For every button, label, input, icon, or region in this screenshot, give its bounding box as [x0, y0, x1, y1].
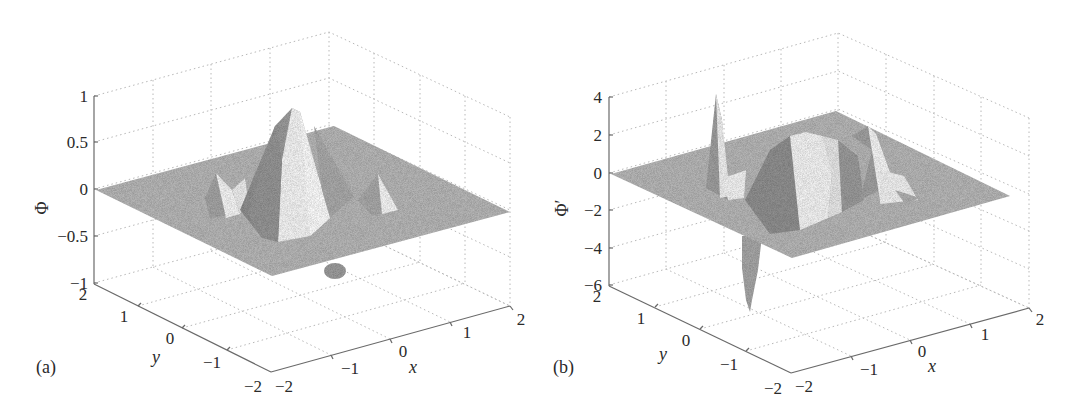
- panel-b: 4 2 0 −2 −4 −6 Φ′ 2 1 0 −1 −2 y −2 −1 0 …: [552, 33, 1044, 398]
- z-tick: 2: [594, 126, 603, 145]
- panel-b-z-label: Φ′: [552, 199, 572, 216]
- y-tick: 1: [120, 307, 129, 326]
- z-tick: 0: [80, 180, 89, 199]
- z-tick: −0.5: [57, 227, 88, 246]
- panel-a-x-ticks: −2 −1 0 1 2: [275, 310, 525, 396]
- x-tick: −2: [795, 377, 813, 396]
- y-tick: 2: [79, 285, 88, 304]
- panel-a-z-label: Φ: [32, 201, 52, 214]
- y-tick: 2: [593, 287, 602, 306]
- y-tick: 0: [166, 329, 175, 348]
- y-tick: 1: [637, 309, 646, 328]
- x-tick: 0: [918, 342, 927, 361]
- x-tick: 2: [517, 310, 526, 329]
- panel-b-label: (b): [553, 357, 574, 378]
- z-tick: −2: [584, 201, 602, 220]
- x-tick: 2: [1036, 310, 1045, 329]
- x-tick: 1: [981, 325, 990, 344]
- panel-b-y-label: y: [657, 344, 667, 364]
- panel-b-surface: [611, 94, 1010, 312]
- panel-a-y-label: y: [150, 347, 160, 367]
- z-tick: 0: [594, 164, 603, 183]
- z-tick: 0.5: [67, 133, 88, 152]
- panel-b-x-label: x: [927, 356, 936, 376]
- panel-a-z-ticks: 1 0.5 0 −0.5 −1: [57, 87, 88, 293]
- panel-a-x-label: x: [408, 357, 417, 377]
- panel-a-y-ticks: 2 1 0 −1 −2: [79, 285, 262, 396]
- x-tick: −2: [275, 377, 293, 396]
- y-tick: −2: [764, 379, 782, 398]
- x-tick: 1: [463, 323, 472, 342]
- panel-b-x-ticks: −2 −1 0 1 2: [795, 310, 1044, 396]
- y-tick: −1: [203, 353, 221, 372]
- x-tick: −1: [860, 360, 878, 379]
- z-tick: 4: [594, 88, 603, 107]
- y-tick: −2: [244, 377, 262, 396]
- figure: 1 0.5 0 −0.5 −1 Φ 2 1 0 −1 −2 y −2 −1 0 …: [0, 0, 1081, 417]
- panel-b-z-ticks: 4 2 0 −2 −4 −6: [584, 88, 603, 295]
- x-tick: −1: [341, 359, 359, 378]
- y-tick: 0: [682, 331, 691, 350]
- z-tick: −4: [584, 239, 603, 258]
- z-tick: 1: [80, 87, 89, 106]
- panel-a: 1 0.5 0 −0.5 −1 Φ 2 1 0 −1 −2 y −2 −1 0 …: [32, 32, 525, 396]
- x-tick: 0: [399, 342, 408, 361]
- y-tick: −1: [720, 355, 738, 374]
- panel-b-y-ticks: 2 1 0 −1 −2: [593, 287, 782, 398]
- panel-a-label: (a): [36, 357, 56, 378]
